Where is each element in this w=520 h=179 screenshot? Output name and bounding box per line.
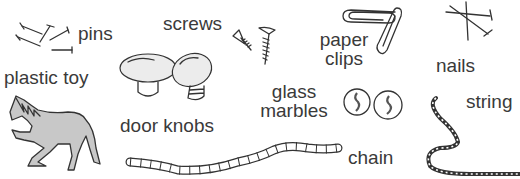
chain-icon <box>128 140 340 176</box>
glass-marbles-label-line1: glass <box>254 82 334 101</box>
plastic-toy-label: plastic toy <box>4 68 88 87</box>
glass-marbles-label-line2: marbles <box>254 101 334 120</box>
pins-label: pins <box>78 24 113 43</box>
door-knobs-label: door knobs <box>120 116 214 135</box>
glass-marbles-label: glass marbles <box>254 82 334 120</box>
string-icon <box>420 96 520 179</box>
screws-icon <box>225 24 277 68</box>
screws-label: screws <box>163 14 222 33</box>
nails-label: nails <box>436 56 475 75</box>
marbles-icon <box>341 88 405 120</box>
chain-label: chain <box>348 148 393 167</box>
pins-icon <box>14 20 70 52</box>
nails-icon <box>440 0 496 44</box>
paper-clips-icon <box>339 2 403 54</box>
door-knobs-icon <box>120 52 220 104</box>
horse-icon <box>2 92 102 176</box>
